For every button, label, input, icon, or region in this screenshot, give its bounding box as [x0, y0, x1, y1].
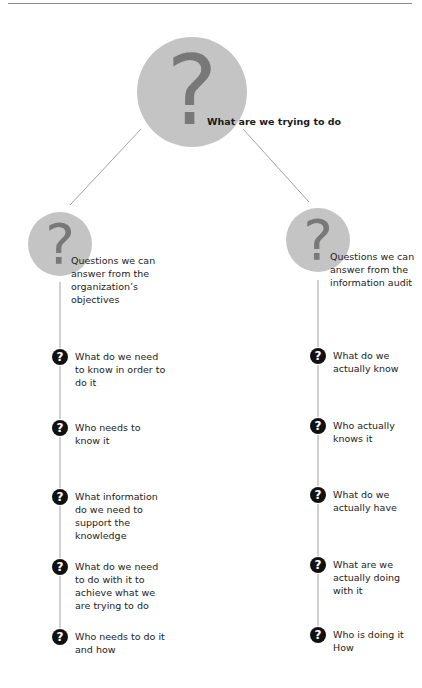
left-item: ? Who needs to know it	[52, 420, 167, 447]
left-item-text: What information do we need to support t…	[75, 490, 167, 542]
right-item-text: What do we actually know	[333, 349, 422, 375]
left-item-text: Who needs to do it and how	[75, 630, 167, 656]
right-item-text: Who actually knows it	[333, 419, 422, 445]
question-icon: ?	[52, 629, 68, 645]
left-branch-label: Questions we can answer from the organiz…	[71, 254, 181, 306]
root-question-icon: ?	[137, 37, 247, 147]
right-item: ? What are we actually doing with it	[310, 557, 422, 597]
left-item-text: What do we need to know in order to do i…	[75, 350, 167, 389]
left-item: ? What do we need to do with it to achie…	[52, 559, 167, 612]
question-icon: ?	[52, 349, 68, 365]
right-item-text: What are we actually doing with it	[333, 558, 422, 597]
left-item: ? What do we need to know in order to do…	[52, 349, 167, 389]
right-branch-label: Questions we can answer from the informa…	[330, 250, 422, 289]
root-question-label: What are we trying to do	[207, 116, 341, 127]
question-icon: ?	[310, 348, 326, 364]
left-item-text: Who needs to know it	[75, 421, 167, 447]
right-item-text: What do we actually have	[333, 488, 422, 514]
right-item: ? What do we actually have	[310, 487, 422, 514]
question-icon: ?	[52, 559, 68, 575]
right-item: ? Who is doing it How	[310, 627, 413, 654]
right-item: ? What do we actually know	[310, 348, 422, 375]
left-item-text: What do we need to do with it to achieve…	[75, 560, 167, 612]
question-icon: ?	[310, 627, 326, 643]
right-item-text: Who is doing it How	[333, 628, 413, 654]
question-icon: ?	[52, 420, 68, 436]
question-icon: ?	[310, 487, 326, 503]
right-item: ? Who actually knows it	[310, 418, 422, 445]
question-icon: ?	[52, 489, 68, 505]
question-icon: ?	[310, 418, 326, 434]
left-item: ? Who needs to do it and how	[52, 629, 167, 656]
question-icon: ?	[310, 557, 326, 573]
left-item: ? What information do we need to support…	[52, 489, 167, 542]
question-mark-glyph: ?	[137, 39, 247, 143]
